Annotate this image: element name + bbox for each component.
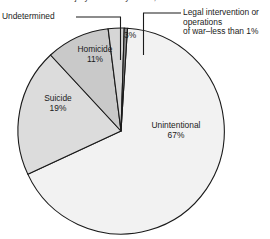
slice-label-suicide: Suicide 19% bbox=[25, 93, 91, 113]
slice-label-homicide: Homicide 11% bbox=[62, 44, 128, 64]
slice-label-homicide-value: 11% bbox=[62, 54, 128, 64]
callout-undetermined: Undetermined bbox=[2, 12, 55, 22]
callout-legal-intervention-line3: of war–less than 1% bbox=[183, 27, 269, 37]
slice-value-undetermined: 3% bbox=[124, 30, 136, 40]
slice-label-suicide-value: 19% bbox=[25, 103, 91, 113]
pie-chart: Injury deaths by intent, 2000–2001 Undet… bbox=[0, 0, 270, 239]
callout-legal-intervention: Legal intervention or operations of war–… bbox=[183, 8, 269, 37]
slice-label-unintentional-value: 67% bbox=[133, 130, 219, 140]
slice-label-unintentional: Unintentional 67% bbox=[133, 120, 219, 140]
slice-label-homicide-name: Homicide bbox=[62, 44, 128, 54]
slice-label-suicide-name: Suicide bbox=[25, 93, 91, 103]
slice-label-unintentional-name: Unintentional bbox=[133, 120, 219, 130]
callout-undetermined-label: Undetermined bbox=[2, 11, 55, 21]
